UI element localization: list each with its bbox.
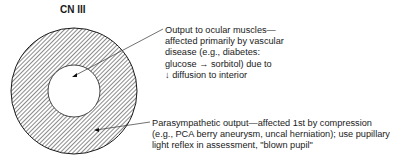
label-line: affected primarily by vascular bbox=[165, 36, 284, 47]
label-line: light reflex in assessment, "blown pupil… bbox=[152, 140, 390, 151]
label-line: ↓ diffusion to interior bbox=[165, 70, 284, 81]
diagram-title: CN III bbox=[60, 4, 86, 15]
inner-core-ocular-motor bbox=[48, 65, 100, 117]
label-line: disease (e.g., diabetes: bbox=[165, 47, 284, 58]
inner-core-label: Output to ocular muscles— affected prima… bbox=[165, 25, 284, 81]
label-line: Output to ocular muscles— bbox=[165, 25, 284, 36]
label-line: glucose → sorbitol) due to bbox=[165, 59, 284, 70]
outer-ring-label: Parasympathetic output—affected 1st by c… bbox=[152, 118, 390, 152]
label-line: (e.g., PCA berry aneurysm, uncal herniat… bbox=[152, 129, 390, 140]
label-line: Parasympathetic output—affected 1st by c… bbox=[152, 118, 390, 129]
